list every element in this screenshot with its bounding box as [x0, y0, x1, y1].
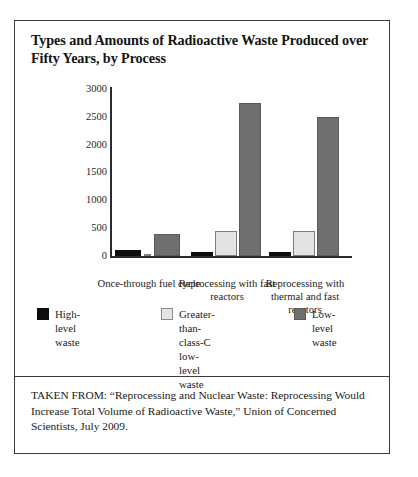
- bar-group-reprocessing-fast-reactors: [189, 89, 265, 256]
- x-axis: [110, 256, 352, 258]
- bar-high-level-waste: [115, 250, 141, 256]
- y-tick-1000: 1000: [65, 195, 107, 206]
- y-tick-0: 0: [65, 251, 107, 262]
- bar-low-level-waste: [154, 234, 180, 256]
- bar-chart: 3000 2500 2000 1500 1000 500 0: [15, 73, 391, 321]
- bar-gtcc-low-level-waste: [293, 231, 315, 256]
- legend-label-low-level-waste: Low-level waste: [312, 307, 337, 349]
- source-note: TAKEN FROM: “Reprocessing and Nuclear Wa…: [31, 388, 375, 435]
- figure-frame: Types and Amounts of Radioactive Waste P…: [14, 20, 390, 454]
- figure-title: Types and Amounts of Radioactive Waste P…: [31, 31, 375, 67]
- bar-gtcc-low-level-waste: [144, 254, 151, 256]
- divider: [15, 376, 389, 377]
- plot-area: Once-through fuel cycle Reprocessing wit…: [111, 89, 341, 256]
- bar-high-level-waste: [191, 252, 213, 256]
- y-axis-tick-labels: 3000 2500 2000 1500 1000 500 0: [59, 73, 107, 273]
- bar-high-level-waste: [269, 252, 291, 256]
- legend-label-gtcc-low-level-waste: Greater-than-class-C low-level waste: [179, 307, 215, 391]
- legend-swatch-low-level-waste: [294, 308, 306, 320]
- bar-low-level-waste: [317, 117, 339, 256]
- bar-gtcc-low-level-waste: [215, 231, 237, 256]
- legend-label-high-level-waste: High-level waste: [55, 307, 80, 349]
- y-tick-500: 500: [65, 223, 107, 234]
- bar-group-once-through: [111, 89, 187, 256]
- y-tick-2000: 2000: [65, 140, 107, 151]
- legend-swatch-gtcc-low-level-waste: [161, 308, 173, 320]
- legend-swatch-high-level-waste: [37, 308, 49, 320]
- bar-low-level-waste: [239, 103, 261, 256]
- bar-group-reprocessing-thermal-fast-reactors: [267, 89, 341, 256]
- y-tick-2500: 2500: [65, 112, 107, 123]
- y-tick-3000: 3000: [65, 84, 107, 95]
- chart-legend: High-level waste Greater-than-class-C lo…: [37, 307, 375, 357]
- y-tick-1500: 1500: [65, 167, 107, 178]
